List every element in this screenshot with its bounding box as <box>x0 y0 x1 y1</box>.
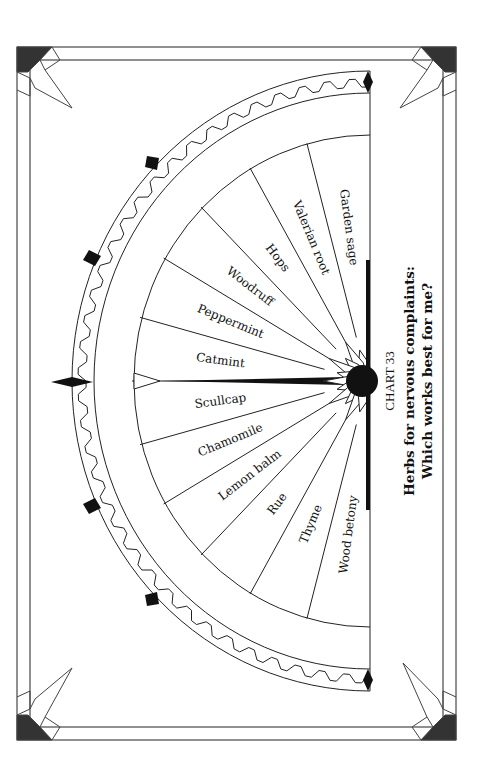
wedge-label: Garden sage <box>337 188 361 266</box>
corner-ornament-bottom-left <box>17 668 72 740</box>
pendulum-chart: Garden sageValerian rootHopsWoodruffPepp… <box>0 0 486 784</box>
chart-title-line2: Which works best for me? <box>419 283 435 480</box>
wedge-label: Hops <box>263 241 293 275</box>
corner-ornament-top-left <box>17 47 72 108</box>
corner-ornament-top-right <box>400 47 456 108</box>
center-star <box>323 260 378 510</box>
chart-title-line1: Herbs for nervous complaints: <box>401 266 417 496</box>
title-block: CHART 33 Herbs for nervous complaints: W… <box>382 266 435 496</box>
corner-ornament-bottom-right <box>403 663 456 740</box>
wedge-label: Scullcap <box>194 390 248 411</box>
wedge-label: Wood betony <box>336 494 360 574</box>
wedge-label: Catmint <box>195 350 246 370</box>
wedge-label: Woodruff <box>224 264 278 310</box>
chart-number: CHART 33 <box>382 351 397 410</box>
wedge-label: Thyme <box>296 502 325 545</box>
wedge-label: Rue <box>264 490 290 517</box>
wedge-label: Peppermint <box>195 301 266 341</box>
wedge-label: Valerian root <box>290 198 334 277</box>
